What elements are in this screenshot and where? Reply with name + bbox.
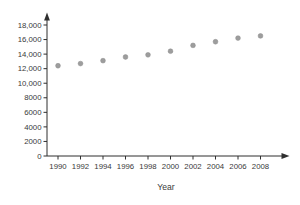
y-tick-label: 12,000 bbox=[18, 64, 43, 73]
y-tick-label: 0 bbox=[37, 152, 42, 161]
x-tick-label: 1990 bbox=[49, 162, 67, 171]
y-tick-label: 4000 bbox=[24, 123, 42, 132]
y-tick-label: 2000 bbox=[24, 137, 42, 146]
y-axis-arrow-icon bbox=[44, 13, 50, 21]
x-tick-label: 2004 bbox=[207, 162, 225, 171]
x-axis-ticks: 1990199219941996199820002002200420062008 bbox=[49, 156, 269, 171]
data-point bbox=[191, 43, 196, 48]
data-point bbox=[123, 55, 128, 60]
y-tick-label: 8000 bbox=[24, 93, 42, 102]
y-tick-label: 6000 bbox=[24, 108, 42, 117]
x-tick-label: 1992 bbox=[72, 162, 89, 171]
data-point bbox=[213, 39, 218, 44]
x-tick-label: 2006 bbox=[229, 162, 246, 171]
data-point bbox=[168, 49, 173, 54]
x-axis-title: Year bbox=[157, 182, 175, 192]
x-tick-label: 1996 bbox=[117, 162, 134, 171]
x-tick-label: 1998 bbox=[139, 162, 156, 171]
x-tick-label: 1994 bbox=[94, 162, 112, 171]
scatter-chart: 0200040006000800010,00012,00014,00016,00… bbox=[0, 0, 300, 205]
x-tick-label: 2002 bbox=[184, 162, 201, 171]
scatter-plot-figure: 0200040006000800010,00012,00014,00016,00… bbox=[0, 0, 300, 205]
x-axis-arrow-icon bbox=[282, 153, 290, 159]
y-tick-label: 10,000 bbox=[18, 79, 43, 88]
data-point bbox=[146, 52, 151, 57]
data-point bbox=[258, 34, 263, 39]
data-point bbox=[236, 36, 241, 41]
y-tick-label: 14,000 bbox=[18, 50, 43, 59]
data-point bbox=[101, 58, 106, 63]
y-tick-label: 18,000 bbox=[18, 21, 43, 30]
y-axis-ticks: 0200040006000800010,00012,00014,00016,00… bbox=[18, 21, 47, 161]
data-point bbox=[78, 61, 83, 66]
data-point bbox=[56, 63, 61, 68]
y-tick-label: 16,000 bbox=[18, 35, 43, 44]
x-tick-label: 2008 bbox=[252, 162, 269, 171]
x-tick-label: 2000 bbox=[162, 162, 180, 171]
data-points bbox=[56, 34, 263, 69]
